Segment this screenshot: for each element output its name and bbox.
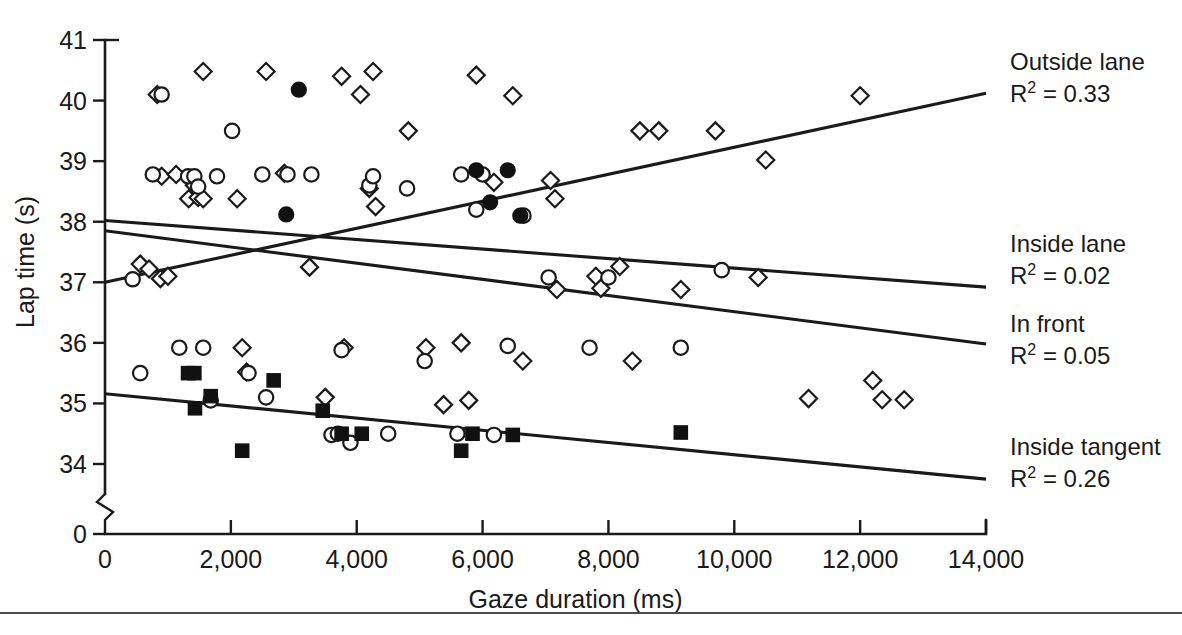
data-point-open-diamond xyxy=(757,151,774,168)
data-point-open-diamond xyxy=(435,396,452,413)
x-axis-line xyxy=(105,520,986,534)
legend-entry-inside-lane: Inside laneR2 = 0.02 xyxy=(1010,230,1126,289)
data-point-open-circle xyxy=(146,167,160,181)
data-point-filled-square xyxy=(355,427,368,440)
data-point-open-circle xyxy=(450,427,464,441)
x-tick-label: 10,000 xyxy=(696,545,772,573)
data-point-open-diamond xyxy=(367,198,384,215)
data-point-open-diamond xyxy=(504,87,521,104)
data-point-open-diamond xyxy=(453,334,470,351)
data-point-open-circle xyxy=(241,366,255,380)
data-point-open-diamond xyxy=(707,122,724,139)
x-tick-label: 12,000 xyxy=(822,545,898,573)
data-point-open-circle xyxy=(334,343,348,357)
data-point-filled-square xyxy=(506,428,519,441)
data-point-open-diamond xyxy=(650,122,667,139)
data-point-open-circle xyxy=(191,179,205,193)
legend-r-squared: R2 = 0.26 xyxy=(1010,464,1110,492)
data-point-open-diamond xyxy=(546,190,563,207)
data-point-open-diamond xyxy=(852,87,869,104)
data-point-open-circle xyxy=(454,167,468,181)
data-point-filled-square xyxy=(204,390,217,403)
data-points xyxy=(125,63,912,457)
legend-r-squared: R2 = 0.33 xyxy=(1010,79,1110,107)
data-point-open-circle xyxy=(417,354,431,368)
data-point-open-circle xyxy=(715,263,729,277)
data-point-open-diamond xyxy=(800,390,817,407)
data-point-open-circle xyxy=(255,167,269,181)
regression-line-inside-tangent xyxy=(105,394,986,479)
legend-label: Inside tangent xyxy=(1010,433,1161,460)
data-point-open-circle xyxy=(487,428,501,442)
x-tick-label: 8,000 xyxy=(577,545,640,573)
regression-lines xyxy=(105,93,986,479)
data-point-open-diamond xyxy=(460,392,477,409)
axis-labels: 3435363738394041002,0004,0006,0008,00010… xyxy=(11,26,1024,613)
data-point-open-diamond xyxy=(352,86,369,103)
legend-label: Outside lane xyxy=(1010,48,1145,75)
data-point-open-circle xyxy=(133,366,147,380)
y-tick-label: 39 xyxy=(59,147,87,175)
legend-label: Inside lane xyxy=(1010,230,1126,257)
data-point-open-diamond xyxy=(365,63,382,80)
x-tick-label: 4,000 xyxy=(325,545,388,573)
data-point-open-circle xyxy=(469,202,483,216)
figure-container: 3435363738394041002,0004,0006,0008,00010… xyxy=(0,0,1182,635)
data-point-open-diamond xyxy=(864,372,881,389)
data-point-open-circle xyxy=(400,181,414,195)
y-axis-title: Lap time (s) xyxy=(11,196,39,328)
data-point-open-diamond xyxy=(333,68,350,85)
data-point-open-circle xyxy=(154,87,168,101)
data-point-open-circle xyxy=(674,341,688,355)
data-point-filled-square xyxy=(335,427,348,440)
data-point-filled-square xyxy=(188,402,201,415)
y-tick-label: 37 xyxy=(59,268,87,296)
data-point-filled-square xyxy=(188,367,201,380)
data-point-filled-square xyxy=(466,427,479,440)
data-point-open-circle xyxy=(225,124,239,138)
data-point-open-circle xyxy=(304,167,318,181)
y-tick-label: 38 xyxy=(59,208,87,236)
data-point-open-diamond xyxy=(234,339,251,356)
data-point-open-circle xyxy=(601,270,615,284)
data-point-open-circle xyxy=(501,339,515,353)
legend-entry-in-front: In frontR2 = 0.05 xyxy=(1010,310,1110,369)
scatter-chart: 3435363738394041002,0004,0006,0008,00010… xyxy=(0,0,1182,635)
data-point-filled-square xyxy=(455,444,468,457)
caption-divider xyxy=(0,612,1182,614)
data-point-filled-circle xyxy=(500,163,515,178)
data-point-open-circle xyxy=(582,341,596,355)
legend: Outside laneR2 = 0.33Inside laneR2 = 0.0… xyxy=(1010,48,1161,492)
regression-line-in-front xyxy=(105,231,986,344)
data-point-open-diamond xyxy=(468,67,485,84)
legend-entry-inside-tangent: Inside tangentR2 = 0.26 xyxy=(1010,433,1161,492)
data-point-open-circle xyxy=(196,341,210,355)
legend-r-squared: R2 = 0.05 xyxy=(1010,341,1110,369)
data-point-filled-square xyxy=(267,374,280,387)
y-axis-break xyxy=(97,494,113,534)
data-point-filled-circle xyxy=(279,207,294,222)
data-point-open-diamond xyxy=(317,389,334,406)
y-tick-label: 34 xyxy=(59,450,87,478)
data-point-open-circle xyxy=(210,169,224,183)
x-tick-label: 2,000 xyxy=(200,545,263,573)
figure-caption xyxy=(30,620,1160,635)
data-point-filled-circle xyxy=(513,208,528,223)
data-point-filled-circle xyxy=(483,195,498,210)
x-tick-label: 0 xyxy=(98,545,112,573)
data-point-filled-square xyxy=(236,444,249,457)
y-tick-label: 35 xyxy=(59,389,87,417)
data-point-open-circle xyxy=(541,270,555,284)
data-point-filled-square xyxy=(316,404,329,417)
data-point-open-circle xyxy=(381,427,395,441)
y-origin-label: 0 xyxy=(73,520,87,548)
y-tick-label: 41 xyxy=(59,26,87,54)
data-point-open-diamond xyxy=(624,353,641,370)
data-point-open-diamond xyxy=(514,353,531,370)
data-point-filled-circle xyxy=(291,82,306,97)
legend-entry-outside-lane: Outside laneR2 = 0.33 xyxy=(1010,48,1145,107)
data-point-filled-square xyxy=(674,426,687,439)
data-point-open-diamond xyxy=(631,122,648,139)
legend-r-squared: R2 = 0.02 xyxy=(1010,261,1110,289)
data-point-open-diamond xyxy=(896,391,913,408)
